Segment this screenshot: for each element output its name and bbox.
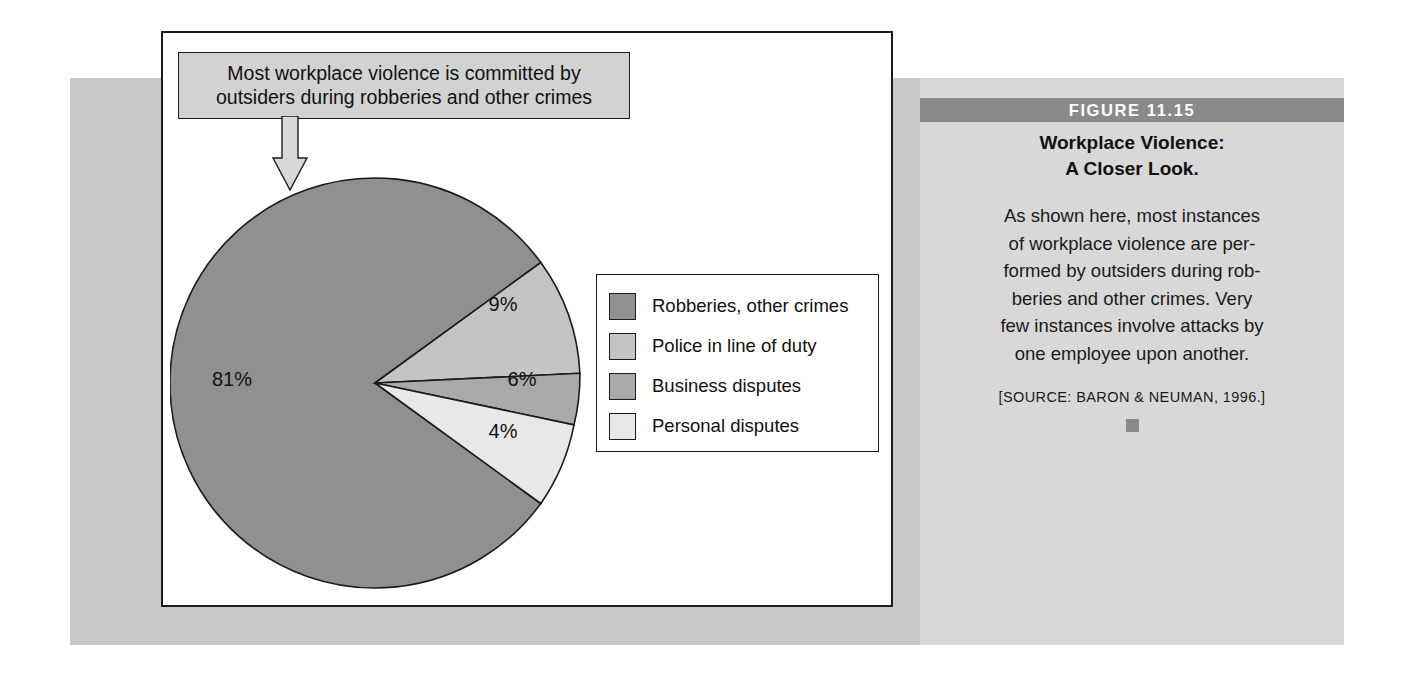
legend-label: Police in line of duty [652, 335, 817, 357]
figure-number: FIGURE 11.15 [1069, 101, 1196, 120]
pie-label-4: 4% [489, 420, 518, 442]
legend-swatch-icon [609, 333, 636, 360]
pie-label-6: 6% [508, 368, 537, 390]
legend-item-robberies: Robberies, other crimes [609, 286, 878, 326]
legend-item-police: Police in line of duty [609, 326, 878, 366]
pie-label-81: 81% [212, 368, 252, 390]
figure-body-line: formed by outsiders during rob- [920, 257, 1344, 285]
callout-line-2: outsiders during robberies and other cri… [216, 86, 592, 110]
callout-box: Most workplace violence is committed by … [178, 52, 630, 119]
figure-title: Workplace Violence: A Closer Look. [920, 130, 1344, 181]
figure-body-line: of workplace violence are per- [920, 230, 1344, 258]
figure-body-line: beries and other crimes. Very [920, 285, 1344, 313]
legend-label: Personal disputes [652, 415, 799, 437]
legend-label: Business disputes [652, 375, 801, 397]
legend-swatch-icon [609, 293, 636, 320]
legend-swatch-icon [609, 373, 636, 400]
figure-body-line: As shown here, most instances [920, 202, 1344, 230]
figure-title-line-2: A Closer Look. [920, 156, 1344, 182]
figure-body-line: one employee upon another. [920, 340, 1344, 368]
callout-line-1: Most workplace violence is committed by [227, 62, 580, 86]
chart-legend: Robberies, other crimes Police in line o… [596, 274, 879, 452]
legend-label: Robberies, other crimes [652, 295, 848, 317]
figure-source: [SOURCE: BARON & NEUMAN, 1996.] [920, 389, 1344, 405]
figure-caption-panel: FIGURE 11.15 Workplace Violence: A Close… [920, 78, 1344, 645]
legend-item-business: Business disputes [609, 366, 878, 406]
pie-chart: 81% 9% 6% 4% [170, 168, 610, 598]
legend-swatch-icon [609, 413, 636, 440]
figure-body-line: few instances involve attacks by [920, 312, 1344, 340]
figure-number-bar: FIGURE 11.15 [920, 98, 1344, 122]
figure-page: Most workplace violence is committed by … [0, 0, 1410, 676]
pie-label-9: 9% [489, 293, 518, 315]
figure-title-line-1: Workplace Violence: [920, 130, 1344, 156]
end-marker-icon [1126, 419, 1139, 432]
legend-item-personal: Personal disputes [609, 406, 878, 446]
figure-body-text: As shown here, most instances of workpla… [920, 202, 1344, 367]
